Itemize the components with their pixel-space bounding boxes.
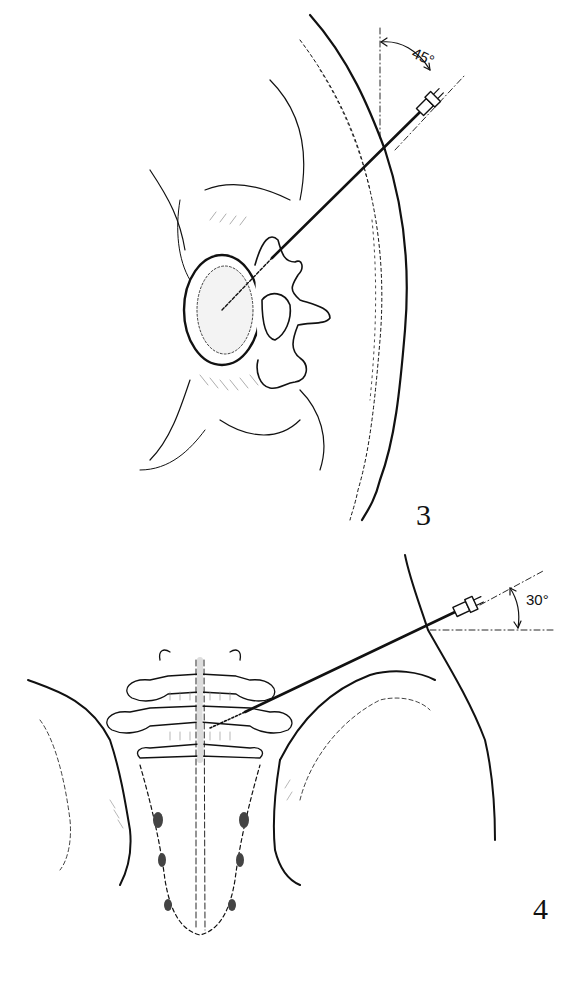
figure-label-4: 4 <box>533 892 548 926</box>
figure-4 <box>28 555 555 935</box>
psoas-outline <box>150 80 304 250</box>
illustration-canvas <box>0 0 584 1000</box>
skin-surface-4 <box>405 555 495 840</box>
spinous-processes <box>199 660 200 760</box>
sacral-foramina <box>153 812 249 911</box>
needle-3 <box>272 112 420 258</box>
angle-label-30: 30° <box>526 591 549 608</box>
needle-hub-4 <box>452 593 485 618</box>
figure-label-3: 3 <box>416 498 431 532</box>
needle-4 <box>245 612 455 712</box>
figure-3 <box>140 15 465 520</box>
iliac-crest-left <box>28 680 131 885</box>
sacrum <box>140 765 260 935</box>
